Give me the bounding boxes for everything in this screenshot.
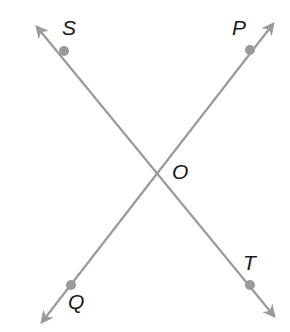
label-q: Q	[68, 290, 84, 313]
label-p: P	[232, 16, 246, 39]
point-s	[59, 46, 69, 56]
label-t: T	[243, 251, 258, 274]
label-s: S	[62, 16, 76, 39]
line-pq	[42, 24, 273, 322]
point-q	[66, 280, 76, 290]
point-t	[245, 280, 255, 290]
point-p	[245, 45, 255, 55]
labels-layer: SPOTQ	[62, 16, 258, 313]
points-layer	[59, 45, 255, 290]
intersecting-lines-diagram: SPOTQ	[0, 0, 290, 332]
label-o: O	[172, 160, 188, 183]
